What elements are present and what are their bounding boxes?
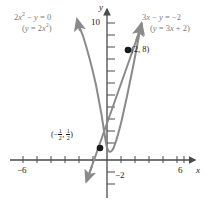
point-b-comma: , (62, 130, 64, 139)
x-tick-label-neg6: −6 (17, 165, 27, 175)
x-tick-label-6: 6 (178, 165, 183, 175)
parabola-eq-rhs: = 0 (38, 12, 51, 22)
line-arrow-lower (87, 166, 93, 181)
y-tick-label-10: 10 (91, 17, 100, 27)
parabola-eq2-close: ) (49, 23, 52, 33)
line-eq-minus: − (150, 12, 159, 22)
point-b-close: ) (70, 130, 73, 139)
line-equation-label: 3x − y = −2 (y = 3x + 2) (142, 12, 190, 33)
line-eq2-end: + 2) (174, 23, 190, 33)
point-label-half: (−12, 12) (51, 128, 73, 142)
intersection-dot-half (97, 145, 104, 152)
graph-figure: 2x2 − y = 0 (y = 2x2) 3x − y = −2 (y = 3… (0, 0, 213, 203)
point-b-fraction-x: 12 (58, 128, 62, 142)
y-tick-label-neg2: −2 (115, 170, 125, 180)
point-b-denominator-y: 2 (66, 135, 70, 142)
parabola-equation-label: 2x2 − y = 0 (y = 2x2) (14, 12, 52, 33)
y-axis-label: y (99, 2, 103, 12)
point-b-numerator-x: 1 (58, 128, 62, 136)
point-b-open: (− (51, 130, 58, 139)
parabola-arrow-left (77, 20, 80, 31)
point-label-2-8: (2, 8) (131, 44, 149, 54)
line-equation-line2: (y = 3x + 2) (142, 23, 190, 34)
parabola-eq2-mid: = 2 (29, 23, 42, 33)
parabola-equation-line2: (y = 2x2) (14, 23, 52, 34)
x-axis-label: x (196, 165, 200, 175)
point-b-denominator-x: 2 (58, 135, 62, 142)
line-eq2-mid: = 3 (157, 23, 170, 33)
parabola-eq-minus: − (25, 12, 34, 22)
point-b-numerator-y: 1 (66, 128, 70, 136)
line-eq-rhs: = −2 (163, 12, 181, 22)
point-b-fraction-y: 12 (66, 128, 70, 142)
line-equation-line1: 3x − y = −2 (142, 12, 190, 23)
